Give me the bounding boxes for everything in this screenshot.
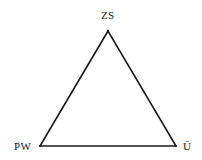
vertex-dot-right <box>175 145 177 147</box>
vertex-label-right: Ü <box>183 140 191 152</box>
vertex-label-top: ZS <box>101 9 114 21</box>
vertex-dot-left <box>39 145 41 147</box>
vertex-label-left: PW <box>14 140 31 152</box>
triangle-shape <box>0 0 202 160</box>
vertex-dot-top <box>107 30 109 32</box>
triangle-outline <box>40 31 176 146</box>
triangle-diagram: ZS PW Ü <box>0 0 202 160</box>
